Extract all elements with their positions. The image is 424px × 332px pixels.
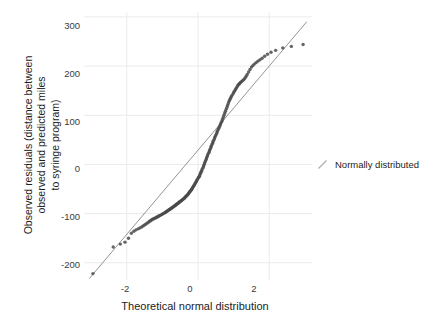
y-tick-label: -100: [38, 211, 80, 222]
legend: Normally distributed: [316, 158, 419, 171]
x-axis-title: Theoretical normal distribution: [70, 300, 320, 312]
x-tick-label: 2: [234, 283, 274, 294]
qq-plot-figure: Observed residuals (distance between obs…: [0, 0, 424, 332]
legend-item-label: Normally distributed: [335, 159, 419, 170]
x-axis-tick-labels: -2 0 2: [0, 283, 424, 299]
gridlines: [84, 12, 312, 280]
x-tick-label: 0: [170, 283, 210, 294]
y-tick-label: 300: [38, 20, 80, 31]
x-tick-label: -2: [105, 283, 145, 294]
plot-canvas: [84, 12, 312, 280]
plot-panel: [84, 12, 312, 280]
y-tick-label: -200: [38, 259, 80, 270]
y-tick-label: 0: [38, 163, 80, 174]
y-tick-label: 100: [38, 116, 80, 127]
diagonal-line-icon: [316, 158, 329, 171]
y-tick-label: 200: [38, 68, 80, 79]
